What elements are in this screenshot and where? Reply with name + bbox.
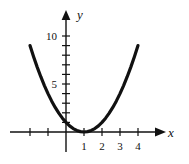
arrow-up-icon <box>62 10 71 20</box>
y-axis-label: y <box>75 7 83 22</box>
parabola-curve <box>30 46 138 132</box>
x-tick-label-4: 4 <box>135 140 141 152</box>
x-axis-label: x <box>167 125 174 140</box>
x-tick-label-3: 3 <box>117 140 123 152</box>
arrow-right-icon <box>155 128 166 137</box>
x-tick-label-2: 2 <box>99 140 105 152</box>
y-tick-label-10: 10 <box>46 30 58 42</box>
y-tick-label-5: 5 <box>52 78 58 90</box>
x-tick-label-1: 1 <box>81 140 87 152</box>
plot-canvas: 1 2 3 4 5 10 x y <box>0 0 189 164</box>
parabola-figure: 1 2 3 4 5 10 x y <box>0 0 189 164</box>
